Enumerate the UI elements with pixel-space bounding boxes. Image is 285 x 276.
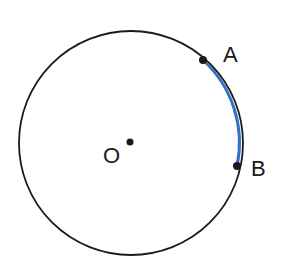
label-o: O bbox=[103, 143, 120, 168]
center-point-o bbox=[127, 139, 134, 146]
label-a: A bbox=[223, 42, 238, 67]
circle-diagram: O A B bbox=[0, 0, 285, 276]
label-b: B bbox=[251, 156, 266, 181]
point-b bbox=[233, 162, 241, 170]
point-a bbox=[199, 56, 207, 64]
